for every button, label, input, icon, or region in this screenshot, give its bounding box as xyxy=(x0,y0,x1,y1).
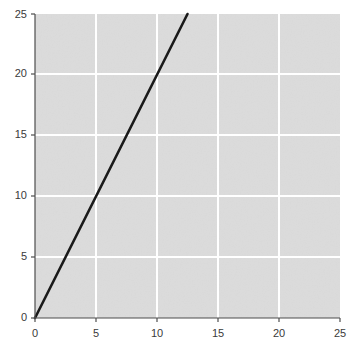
y-tick-label-5: 5 xyxy=(21,250,27,262)
x-tick-label-25: 25 xyxy=(334,327,346,339)
x-tick-label-0: 0 xyxy=(32,327,38,339)
chart-figure: 0 5 10 15 20 25 0 5 10 15 20 25 xyxy=(0,0,355,352)
chart-svg: 0 5 10 15 20 25 0 5 10 15 20 25 xyxy=(0,0,355,352)
x-tick-label-20: 20 xyxy=(273,327,285,339)
x-tick-label-10: 10 xyxy=(151,327,163,339)
plot-panel-texture xyxy=(35,14,340,318)
x-tick-label-5: 5 xyxy=(93,327,99,339)
y-tick-label-20: 20 xyxy=(15,67,27,79)
x-tick-label-15: 15 xyxy=(212,327,224,339)
y-tick-label-10: 10 xyxy=(15,189,27,201)
y-tick-label-25: 25 xyxy=(15,8,27,20)
y-tick-label-15: 15 xyxy=(15,128,27,140)
y-tick-label-0: 0 xyxy=(21,311,27,323)
plot-panel xyxy=(35,14,340,318)
